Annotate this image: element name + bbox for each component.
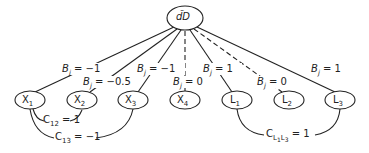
edge-label-l3: Bj = 1 bbox=[311, 64, 341, 77]
node-label-x1: X1 bbox=[22, 95, 33, 108]
corr-label-x1-x3: C13 = −1 bbox=[55, 132, 100, 145]
edge-label-x4: Bj = 0 bbox=[173, 77, 203, 90]
edge-label-l1: Bj = 1 bbox=[203, 64, 233, 77]
node-label-l1: L1 bbox=[230, 95, 240, 108]
edge-label-l2: Bj = 0 bbox=[257, 77, 287, 90]
root-label: d̃D bbox=[176, 12, 190, 22]
corr-arc-x1-x3-end bbox=[96, 109, 133, 138]
node-label-l2: L2 bbox=[282, 95, 292, 108]
corr-arc-l1-l3 bbox=[237, 109, 264, 135]
corr-label-l1-l3: CL1L3 = 1 bbox=[266, 129, 310, 143]
node-label-x3: X3 bbox=[125, 95, 136, 108]
node-label-x2: X2 bbox=[74, 95, 85, 108]
node-label-x4: X4 bbox=[177, 95, 188, 108]
node-label-l3: L3 bbox=[333, 95, 343, 108]
corr-arc-l1-l3-end bbox=[315, 109, 340, 135]
corr-label-x1-x2: C12 = 1 bbox=[43, 115, 80, 128]
edge-label-x2: Bj = −0.5 bbox=[83, 77, 131, 90]
edge-label-x3: Bj = −1 bbox=[137, 64, 175, 77]
